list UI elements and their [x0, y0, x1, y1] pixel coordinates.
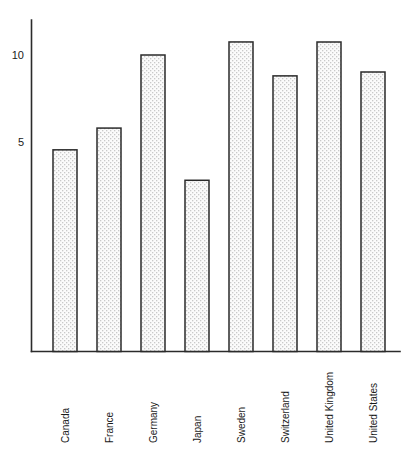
bar-japan[interactable]	[185, 180, 209, 351]
x-tick-label-canada: Canada	[60, 408, 71, 443]
bar-france[interactable]	[97, 128, 121, 351]
x-tick-label-united-states: United States	[368, 383, 379, 443]
y-tick-label-5: 5	[18, 136, 24, 148]
bar-united-kingdom[interactable]	[317, 42, 341, 352]
bar-canada[interactable]	[53, 150, 77, 352]
bar-germany[interactable]	[141, 55, 165, 352]
x-tick-label-united-kingdom: United Kingdom	[324, 372, 335, 443]
x-tick-label-japan: Japan	[192, 416, 203, 443]
x-tick-label-sweden: Sweden	[236, 407, 247, 443]
x-tick-label-germany: Germany	[148, 402, 159, 443]
bar-switzerland[interactable]	[273, 76, 297, 352]
chart-canvas: 10 5 Canada France Germany Japan Sweden …	[0, 0, 415, 451]
bar-chart: 10 5 Canada France Germany Japan Sweden …	[0, 0, 415, 451]
x-tick-label-france: France	[104, 411, 115, 443]
bar-united-states[interactable]	[361, 72, 385, 352]
y-tick-label-10: 10	[12, 49, 24, 61]
x-tick-label-switzerland: Switzerland	[280, 391, 291, 443]
bar-sweden[interactable]	[229, 42, 253, 352]
